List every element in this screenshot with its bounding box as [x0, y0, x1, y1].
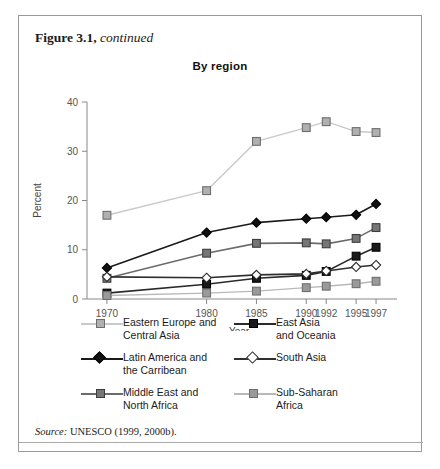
- chart-plot-area: 0102030401970198019851990199219951997Yea…: [19, 76, 423, 331]
- figure-caption-continued: continued: [97, 30, 154, 45]
- data-point-marker: [203, 187, 211, 195]
- legend-label: Middle East andNorth Africa: [123, 386, 198, 411]
- legend-square-icon: [96, 319, 105, 328]
- data-point-marker: [252, 218, 261, 227]
- data-point-marker: [302, 214, 311, 223]
- legend-square-icon: [96, 389, 105, 398]
- figure-caption-number: Figure 3.1,: [35, 30, 97, 45]
- chart-legend: Eastern Europe andCentral AsiaLatin Amer…: [19, 316, 423, 406]
- source-note: Source: UNESCO (1999, 2000b).: [35, 426, 177, 437]
- data-point-marker: [352, 252, 360, 260]
- legend-column-left: Eastern Europe andCentral AsiaLatin Amer…: [81, 316, 231, 421]
- data-point-marker: [352, 262, 361, 271]
- series-4: [103, 243, 380, 297]
- data-point-marker: [103, 292, 111, 300]
- data-point-marker: [352, 280, 360, 288]
- data-point-marker: [253, 239, 261, 247]
- legend-item: Eastern Europe andCentral Asia: [81, 316, 231, 342]
- figure-caption: Figure 3.1, continued: [35, 30, 153, 46]
- data-point-marker: [372, 277, 380, 285]
- legend-square-icon: [249, 389, 258, 398]
- legend-item: South Asia: [234, 351, 409, 377]
- legend-marker: [234, 317, 276, 331]
- legend-item: East Asiaand Oceania: [234, 316, 409, 342]
- legend-diamond-icon: [246, 351, 259, 364]
- legend-label: South Asia: [276, 351, 326, 364]
- legend-item: Latin America andthe Carribean: [81, 351, 231, 377]
- series-1: [103, 118, 380, 219]
- legend-marker: [81, 387, 123, 401]
- data-point-marker: [202, 228, 211, 237]
- data-point-marker: [203, 289, 211, 297]
- y-axis-label: Percent: [32, 183, 43, 218]
- data-point-marker: [302, 124, 310, 132]
- data-point-marker: [322, 118, 330, 126]
- data-point-marker: [352, 128, 360, 136]
- source-divider: [19, 442, 423, 443]
- data-point-marker: [302, 284, 310, 292]
- data-point-marker: [203, 249, 211, 257]
- legend-label: Eastern Europe andCentral Asia: [123, 316, 216, 341]
- y-axis-tick-label: 20: [67, 195, 79, 206]
- data-point-marker: [102, 263, 111, 272]
- legend-marker: [81, 317, 123, 331]
- data-point-marker: [322, 213, 331, 222]
- data-point-marker: [322, 282, 330, 290]
- legend-column-right: East Asiaand OceaniaSouth AsiaSub-Sahara…: [234, 316, 409, 421]
- legend-diamond-icon: [93, 351, 106, 364]
- y-axis-tick-label: 30: [67, 146, 79, 157]
- data-point-marker: [352, 235, 360, 243]
- data-point-marker: [372, 224, 380, 232]
- legend-marker: [81, 352, 123, 366]
- data-point-marker: [302, 239, 310, 247]
- legend-marker: [234, 352, 276, 366]
- y-axis-tick-label: 0: [72, 294, 78, 305]
- data-point-marker: [253, 138, 261, 146]
- legend-marker: [234, 387, 276, 401]
- legend-label: Latin America andthe Carribean: [123, 351, 207, 376]
- legend-square-icon: [249, 319, 258, 328]
- series-3: [103, 224, 380, 283]
- legend-item: Middle East andNorth Africa: [81, 386, 231, 412]
- figure-frame: Figure 3.1, continued By region 01020304…: [18, 15, 422, 452]
- data-point-marker: [372, 243, 380, 251]
- legend-label: East Asiaand Oceania: [276, 316, 336, 341]
- series-5: [102, 260, 380, 282]
- series-line: [107, 204, 376, 268]
- data-point-marker: [103, 211, 111, 219]
- series-line: [107, 122, 376, 216]
- data-point-marker: [371, 199, 380, 208]
- line-chart-svg: 0102030401970198019851990199219951997Yea…: [19, 76, 423, 331]
- data-point-marker: [322, 240, 330, 248]
- legend-item: Sub-SaharanAfrica: [234, 386, 409, 412]
- data-point-marker: [372, 129, 380, 137]
- series-line: [107, 281, 376, 295]
- source-label: Source:: [35, 426, 67, 437]
- legend-label: Sub-SaharanAfrica: [276, 386, 338, 411]
- data-point-marker: [352, 210, 361, 219]
- chart-title: By region: [19, 60, 421, 72]
- y-axis-tick-label: 10: [67, 244, 79, 255]
- series-2: [102, 199, 380, 272]
- source-value: UNESCO (1999, 2000b).: [67, 426, 176, 437]
- data-point-marker: [253, 287, 261, 295]
- y-axis-tick-label: 40: [67, 97, 79, 108]
- data-point-marker: [371, 260, 380, 269]
